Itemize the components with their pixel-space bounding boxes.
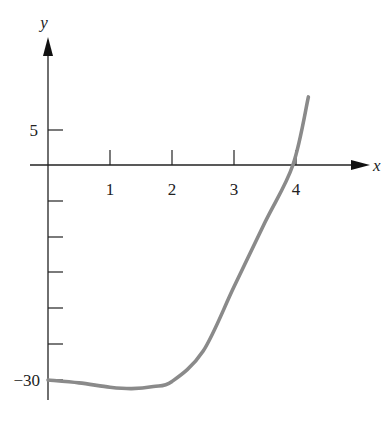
chart: y x 1 2 3 4 5 −30 <box>0 0 383 425</box>
x-ticks <box>110 150 296 165</box>
y-tick-label: 5 <box>30 121 39 140</box>
x-tick-label: 4 <box>292 180 301 199</box>
x-axis-arrow-icon <box>351 160 370 170</box>
y-ticks <box>48 130 63 380</box>
x-tick-label: 3 <box>230 180 239 199</box>
x-tick-label: 1 <box>106 180 115 199</box>
y-axis-arrow-icon <box>43 37 53 56</box>
x-tick-label: 2 <box>168 180 177 199</box>
function-curve <box>48 97 308 389</box>
y-tick-label: −30 <box>13 371 40 390</box>
x-axis-label: x <box>372 156 381 175</box>
y-axis-label: y <box>38 13 48 32</box>
